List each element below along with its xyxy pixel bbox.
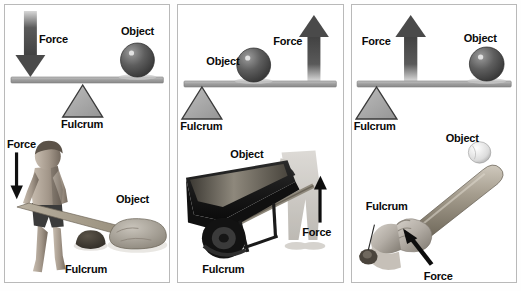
object-label-photo: Object [230, 149, 263, 160]
gripping-hands [368, 219, 432, 270]
fulcrum-triangle [356, 87, 397, 119]
object-label: Object [464, 33, 497, 44]
photo-boy-prying-rock: Force Object Fulcrum [5, 131, 169, 282]
diagram-second-class: Force Object Fulcrum [178, 5, 342, 133]
object-rock [108, 219, 168, 253]
diagram-third-class: Force Object Fulcrum [352, 5, 516, 133]
object-sphere [467, 47, 506, 84]
lever-classes-figure: Force Object Fulcrum [0, 0, 521, 291]
object-sphere [235, 48, 273, 84]
diagram-first-class: Force Object Fulcrum [5, 5, 169, 133]
second-class-lever-svg [178, 5, 342, 133]
force-label-photo: Force [302, 227, 331, 238]
object-label: Object [121, 26, 154, 37]
photo-wheelbarrow: Object Force Fulcrum [178, 131, 342, 282]
force-arrow-up [395, 15, 426, 81]
fulcrum-pivot [359, 249, 377, 265]
fulcrum-label-photo: Fulcrum [65, 264, 107, 275]
force-label-photo: Force [424, 271, 453, 282]
panel-third-class-lever: Force Object Fulcrum [351, 4, 517, 283]
third-class-lever-svg [352, 5, 516, 133]
object-label-photo: Object [116, 194, 149, 205]
fulcrum-label-photo: Fulcrum [202, 264, 244, 275]
panel-second-class-lever: Force Object Fulcrum [177, 4, 343, 283]
force-arrow-up [299, 15, 329, 81]
fulcrum-label: Fulcrum [61, 119, 103, 130]
fulcrum-stone [74, 230, 108, 250]
photo-baseball-bat: Fulcrum Object Force [352, 131, 516, 282]
fulcrum-label-photo: Fulcrum [366, 201, 408, 212]
force-label: Force [39, 34, 68, 45]
force-label: Force [362, 36, 391, 47]
wheelbarrow-wheel-fulcrum [202, 218, 246, 259]
baseball-object [468, 142, 490, 163]
force-label-photo: Force [7, 139, 36, 150]
boy-lever-illustration [5, 131, 169, 282]
object-sphere [119, 43, 157, 80]
fulcrum-triangle [182, 87, 222, 119]
panel-first-class-lever: Force Object Fulcrum [4, 4, 170, 283]
fulcrum-triangle [63, 85, 103, 117]
object-label: Object [206, 56, 239, 67]
force-label: Force [273, 36, 302, 47]
object-label-photo: Object [446, 133, 479, 144]
force-arrow-down-photo [10, 152, 22, 199]
wheelbarrow-tray [186, 160, 300, 232]
